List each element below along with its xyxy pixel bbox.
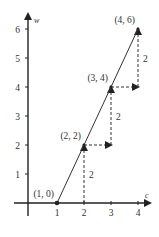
y-tick-label: 6 xyxy=(15,25,20,35)
data-point xyxy=(55,201,60,206)
point-label: (3, 4) xyxy=(87,73,108,84)
data-point xyxy=(82,143,85,146)
rise-label: 2 xyxy=(89,170,94,180)
x-tick-label: 3 xyxy=(109,208,114,218)
data-point xyxy=(109,85,112,88)
point-label: (4, 6) xyxy=(114,15,135,26)
point-label: (1, 0) xyxy=(33,189,54,200)
data-point xyxy=(136,27,139,30)
y-axis-label: w xyxy=(34,16,40,25)
y-tick-label: 2 xyxy=(15,141,20,151)
point-label: (2, 2) xyxy=(60,131,81,142)
y-tick-label: 3 xyxy=(15,112,20,122)
rise-label: 2 xyxy=(116,112,121,122)
x-tick-label: 2 xyxy=(82,208,87,218)
step-arrows: 222 xyxy=(84,29,148,203)
x-tick-label: 1 xyxy=(55,208,60,218)
x-axis-label: c xyxy=(145,191,149,200)
axes: cw1234123456 xyxy=(14,14,150,218)
graph-line xyxy=(55,27,140,205)
function-line xyxy=(57,29,138,203)
y-tick-label: 4 xyxy=(15,83,20,93)
rise-label: 2 xyxy=(143,54,148,64)
y-tick-label: 1 xyxy=(15,170,20,180)
linear-function-diagram: cw1234123456 222 (1, 0)(2, 2)(3, 4)(4, 6… xyxy=(0,0,159,237)
x-tick-label: 4 xyxy=(136,208,141,218)
y-tick-label: 5 xyxy=(15,54,20,64)
